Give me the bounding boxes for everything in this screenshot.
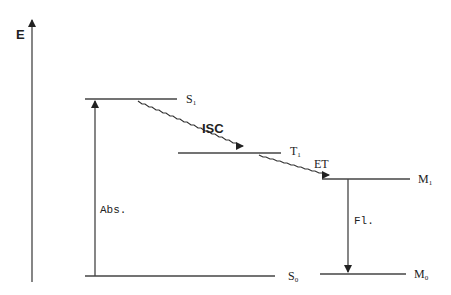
level-s1-label: S1: [186, 92, 197, 107]
et-label: ET: [314, 157, 329, 171]
fluorescence-label: Fl.: [354, 215, 374, 227]
energy-axis-label: E: [16, 27, 25, 42]
energy-diagram: E S1 T1 M1 S0 M0 Abs. ISC ET Fl.: [0, 0, 451, 295]
isc-label: ISC: [202, 121, 224, 136]
level-m1-label: M1: [418, 172, 433, 187]
level-m0-label: M0: [414, 267, 429, 282]
level-t1-label: T1: [290, 144, 301, 159]
absorption-label: Abs.: [100, 204, 126, 216]
isc-wavy-arrow: [138, 101, 243, 146]
level-s0-label: S0: [288, 269, 299, 284]
